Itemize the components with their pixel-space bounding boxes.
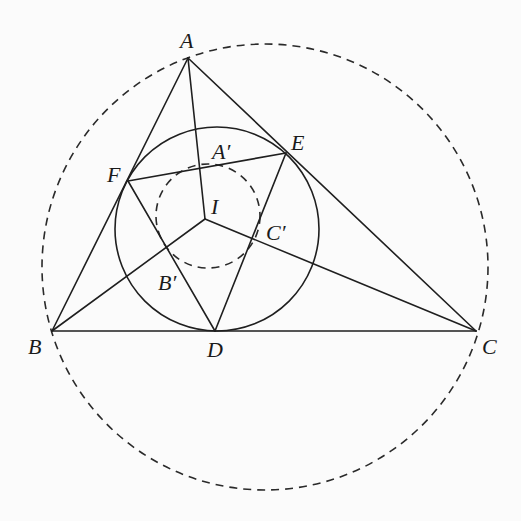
point-label-d: D [206, 337, 223, 362]
segment-d-f [128, 181, 215, 331]
point-label-b1: B′ [158, 270, 177, 295]
labels-layer: ABCDEFIA′B′C′ [28, 28, 497, 362]
circumcircle [42, 44, 488, 490]
point-label-f: F [106, 162, 121, 187]
diagram-canvas: ABCDEFIA′B′C′ [0, 0, 521, 521]
point-label-e: E [290, 130, 305, 155]
point-label-b: B [28, 334, 41, 359]
geometry-diagram: ABCDEFIA′B′C′ [0, 0, 521, 521]
point-label-c: C [482, 334, 497, 359]
point-label-a1: A′ [210, 139, 231, 164]
point-label-c1: C′ [266, 220, 287, 245]
point-label-i: I [210, 194, 220, 219]
point-label-a: A [178, 28, 194, 53]
small-circle [156, 164, 260, 268]
segment-f-e [128, 153, 286, 181]
segment-a-i [188, 58, 205, 219]
circles-layer [42, 44, 488, 490]
segment-c-i [205, 219, 476, 331]
